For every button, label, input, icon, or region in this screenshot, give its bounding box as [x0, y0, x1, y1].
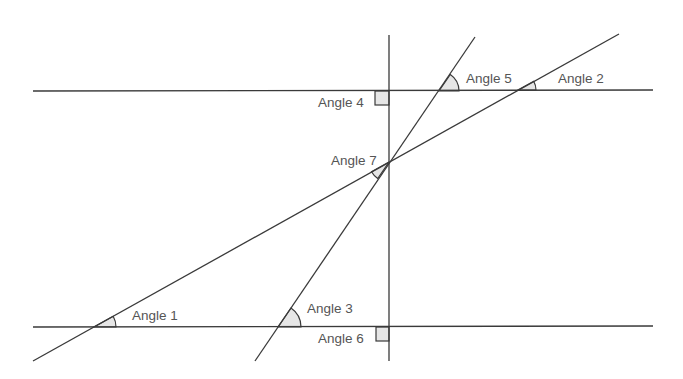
bottom-horizontal-line — [33, 326, 653, 327]
angle-7-label: Angle 7 — [331, 153, 377, 168]
angle-6-right-angle-marker — [376, 327, 389, 341]
angle-5-arc — [439, 75, 459, 92]
steep-diagonal-line — [255, 37, 475, 361]
angle-2-label: Angle 2 — [558, 71, 604, 86]
angle-6-label: Angle 6 — [318, 331, 364, 346]
angle-3-label: Angle 3 — [307, 301, 353, 316]
angle-4-label: Angle 4 — [318, 95, 364, 110]
angle-5-label: Angle 5 — [466, 71, 512, 86]
angle-4-right-angle-marker — [375, 91, 389, 105]
top-horizontal-line — [33, 90, 653, 91]
angle-diagram: Angle 1 Angle 2 Angle 3 Angle 4 Angle 5 … — [0, 0, 683, 379]
angle-1-label: Angle 1 — [132, 308, 178, 323]
